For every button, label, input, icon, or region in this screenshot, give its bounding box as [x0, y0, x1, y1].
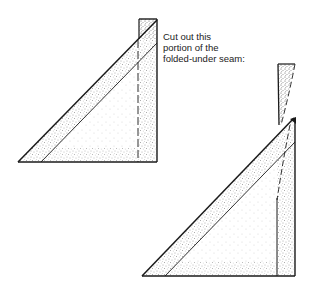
- caption-line-2: portion of the: [163, 42, 245, 53]
- right-triangle-figure: [142, 117, 296, 276]
- left-triangle-figure: [18, 19, 157, 162]
- left-right-band: [139, 21, 157, 162]
- caption-line-1: Cut out this: [163, 31, 245, 42]
- cut-out-piece: [278, 64, 295, 125]
- right-bottom-band: [165, 262, 295, 276]
- cut-instruction-caption: Cut out this portion of the folded-under…: [163, 31, 245, 64]
- left-bottom-band: [41, 148, 157, 162]
- seam-diagram: [0, 0, 311, 298]
- caption-line-3: folded-under seam:: [163, 53, 245, 64]
